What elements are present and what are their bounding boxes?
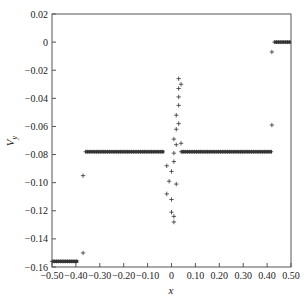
y-tick-label: −0.04 xyxy=(25,93,48,104)
plus-marker xyxy=(174,127,178,131)
plus-marker xyxy=(167,179,171,183)
plus-marker xyxy=(172,159,176,163)
plus-marker xyxy=(169,169,173,173)
x-tick-label: −0.10 xyxy=(136,270,159,281)
x-tick-label: 0 xyxy=(169,270,174,281)
svg-text:Vy: Vy xyxy=(4,135,19,146)
y-tick-label: −0.16 xyxy=(25,262,48,273)
y-axis-label-sub: y xyxy=(10,135,19,140)
x-tick-label: 0.50 xyxy=(282,270,300,281)
y-tick-label: −0.12 xyxy=(25,205,48,216)
plus-marker xyxy=(81,251,85,255)
x-axis-ticks: −0.50−0.40−0.30−0.20−0.1000.100.200.300.… xyxy=(40,263,299,281)
plus-marker xyxy=(179,141,183,145)
plus-marker xyxy=(165,192,169,196)
y-tick-label: −0.14 xyxy=(25,233,48,244)
plus-marker xyxy=(174,143,178,147)
plus-marker xyxy=(176,76,180,80)
plus-marker xyxy=(179,82,183,86)
plus-marker xyxy=(176,121,180,125)
plus-marker xyxy=(169,197,173,201)
plus-marker xyxy=(172,151,176,155)
data-bands xyxy=(50,40,292,263)
plus-marker xyxy=(169,210,173,214)
x-tick-label: 0.30 xyxy=(234,270,252,281)
y-tick-label: −0.08 xyxy=(25,149,48,160)
plus-marker xyxy=(81,173,85,177)
x-tick-label: −0.40 xyxy=(64,270,87,281)
plus-marker xyxy=(176,103,180,107)
y-tick-label: 0 xyxy=(43,37,48,48)
plus-marker xyxy=(172,137,176,141)
plot-frame xyxy=(52,14,291,267)
x-tick-label: 0.10 xyxy=(187,270,205,281)
scatter-chart: −0.50−0.40−0.30−0.20−0.1000.100.200.300.… xyxy=(0,0,307,306)
plus-marker xyxy=(270,123,274,127)
plus-marker xyxy=(174,113,178,117)
plus-marker xyxy=(176,95,180,99)
x-tick-label: 0.40 xyxy=(258,270,276,281)
x-tick-label: −0.30 xyxy=(88,270,111,281)
x-tick-label: 0.20 xyxy=(211,270,229,281)
y-tick-label: −0.06 xyxy=(25,121,48,132)
plus-marker xyxy=(176,86,180,90)
x-axis-label: x xyxy=(168,284,174,296)
plus-marker xyxy=(174,182,178,186)
y-axis-label: Vy xyxy=(4,135,19,146)
plus-marker xyxy=(172,214,176,218)
plus-marker xyxy=(165,164,169,168)
plus-marker xyxy=(270,50,274,54)
y-tick-label: −0.02 xyxy=(25,65,48,76)
plus-marker xyxy=(172,220,176,224)
y-axis-ticks: 0.020−0.02−0.04−0.06−0.08−0.10−0.12−0.14… xyxy=(25,9,56,273)
y-tick-label: −0.10 xyxy=(25,177,48,188)
y-tick-label: 0.02 xyxy=(31,9,49,20)
x-tick-label: −0.20 xyxy=(112,270,135,281)
